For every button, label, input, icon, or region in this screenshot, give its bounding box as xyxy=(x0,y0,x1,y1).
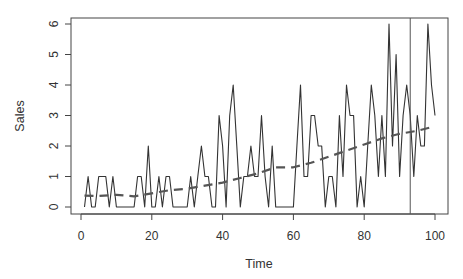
x-tick-label: 100 xyxy=(425,229,445,243)
x-tick-label: 0 xyxy=(78,229,85,243)
x-axis: 020406080100 xyxy=(78,214,446,243)
x-axis-title: Time xyxy=(245,257,272,271)
y-tick-label: 6 xyxy=(47,20,61,27)
series-layer xyxy=(85,24,436,207)
y-tick-label: 5 xyxy=(47,51,61,58)
y-axis: 0123456 xyxy=(47,20,71,210)
x-tick-label: 60 xyxy=(287,229,301,243)
y-tick-label: 4 xyxy=(47,81,61,88)
y-tick-label: 3 xyxy=(47,112,61,119)
x-tick-label: 20 xyxy=(145,229,159,243)
sales-line xyxy=(85,24,436,207)
y-tick-label: 2 xyxy=(47,142,61,149)
y-tick-label: 0 xyxy=(47,203,61,210)
y-tick-label: 1 xyxy=(47,173,61,180)
x-tick-label: 80 xyxy=(358,229,372,243)
x-tick-label: 40 xyxy=(216,229,230,243)
y-axis-title: Sales xyxy=(13,100,27,131)
sales-time-series-chart: 020406080100 0123456 Time Sales xyxy=(0,0,463,279)
